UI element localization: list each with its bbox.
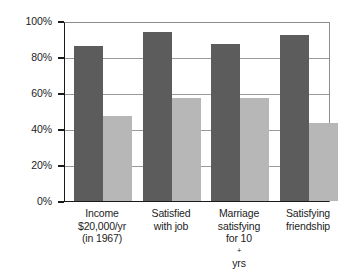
x-label-2-superscript-plus: + [191, 245, 287, 258]
bar-dark-3 [280, 35, 309, 201]
bar-light-1 [172, 98, 201, 201]
x-label-3-line-0: Satisfying [260, 207, 341, 220]
y-axis-label-40: 40% [31, 124, 52, 135]
y-axis-label-80: 80% [31, 52, 52, 63]
y-axis-label-100: 100% [26, 16, 52, 27]
bar-dark-1 [143, 32, 172, 201]
y-axis-label-0: 0% [37, 196, 52, 207]
bar-series-container [65, 23, 329, 201]
bar-dark-2 [211, 44, 240, 201]
x-label-2-line-2-c: yrs [191, 257, 287, 270]
x-label-2-line-2: for 10+ yrs [191, 232, 287, 270]
bar-light-2 [240, 98, 269, 201]
x-label-2-line-2-a: for 10 [191, 232, 287, 245]
bar-light-3 [309, 123, 338, 201]
x-label-3-line-1: friendship [260, 220, 341, 233]
x-label-0-line-2: (in 1967) [54, 232, 150, 245]
bar-light-0 [103, 116, 132, 201]
x-axis-labels: Income $20,000/yr (in 1967) Satisfied wi… [64, 207, 330, 259]
plot-area [64, 22, 330, 202]
y-axis-label-60: 60% [31, 88, 52, 99]
bar-dark-0 [74, 46, 103, 201]
y-axis-label-20: 20% [31, 160, 52, 171]
x-label-group-3: Satisfying friendship [260, 207, 341, 232]
